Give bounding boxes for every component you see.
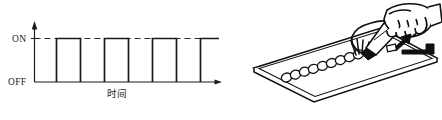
- x-axis-title: 时间: [107, 88, 128, 99]
- pulse-chart-svg: ON OFF 时间: [0, 0, 232, 120]
- on-label: ON: [12, 34, 26, 44]
- y-axis: [32, 21, 38, 82]
- pulse-waveform: [57, 39, 220, 83]
- x-axis-arrowhead: [215, 80, 223, 85]
- welding-illustration-svg: [248, 0, 442, 120]
- cable-connector: [386, 44, 396, 52]
- welding-illustration: [248, 0, 442, 120]
- hand: [384, 4, 442, 38]
- off-label: OFF: [8, 77, 26, 87]
- figure-container: ON OFF 时间: [0, 0, 442, 120]
- pulse-timing-chart: ON OFF 时间: [0, 0, 232, 120]
